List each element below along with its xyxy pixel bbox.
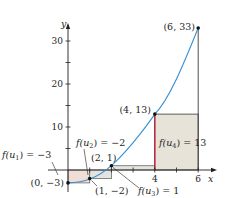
point-6: [196, 26, 200, 30]
y-tick-label-20: 20: [52, 79, 64, 89]
point-4: [153, 112, 157, 116]
y-axis-label: y: [60, 18, 67, 29]
annotation-fu2: f(u2) = −2: [75, 137, 125, 150]
leader-fu1: [52, 162, 58, 175]
point-2: [110, 164, 114, 168]
y-tick-label-30: 30: [52, 36, 64, 46]
point-label-6: (6, 33): [163, 21, 195, 32]
x-axis-label: x: [208, 173, 214, 184]
point-label-2: (2, 1): [91, 152, 117, 163]
rect-1: [68, 170, 90, 183]
annotation-fu1: f(u1) = −3: [1, 149, 51, 162]
point-0: [66, 181, 70, 185]
riemann-sum-chart: 30 20 10 4 6 y x (0, −3) (1, −2) (2, 1) …: [0, 0, 230, 198]
point-label-0: (0, −3): [30, 177, 64, 188]
y-tick-label-10: 10: [52, 122, 64, 132]
point-1: [88, 177, 92, 181]
x-axis-arrow-icon: [211, 168, 217, 172]
annotation-fu3: f(u3) = 1: [137, 185, 179, 198]
point-label-1: (1, −2): [95, 185, 129, 196]
point-label-4: (4, 13): [119, 104, 151, 115]
x-tick-label-4: 4: [152, 174, 158, 184]
x-tick-label-6: 6: [195, 174, 201, 184]
y-axis-arrow-icon: [66, 23, 70, 29]
